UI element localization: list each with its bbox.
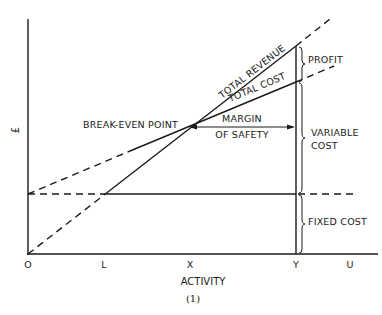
total-revenue-line-dashed-end: [296, 19, 330, 46]
total-cost-line: [130, 82, 296, 151]
total-revenue-line-dashed-start: [28, 195, 104, 254]
margin-label-line2: OF SAFETY: [215, 129, 269, 140]
x-tick-x: X: [187, 259, 194, 270]
y-axis-label: £: [10, 127, 21, 133]
fixed-cost-label: FIXED COST: [308, 216, 367, 227]
fixed-cost-brace: [299, 195, 305, 253]
figure-caption: (1): [186, 293, 200, 304]
variable-cost-label-line2: COST: [311, 140, 338, 151]
profit-brace: [299, 47, 305, 82]
break-even-point-label: BREAK-EVEN POINT: [83, 119, 178, 130]
x-axis-label: ACTIVITY: [181, 276, 227, 287]
break-even-chart: £ TOTAL REVENUE TOTAL COST BREAK-EVEN PO…: [0, 0, 382, 315]
profit-label: PROFIT: [308, 54, 343, 65]
variable-cost-label-line1: VARIABLE: [311, 127, 359, 138]
arrow-right-head: [287, 125, 295, 130]
variable-cost-brace: [299, 83, 305, 193]
x-tick-l: L: [101, 259, 107, 270]
margin-label-line1: MARGIN: [222, 113, 262, 124]
x-tick-o: O: [24, 259, 32, 270]
x-tick-y: Y: [292, 259, 299, 270]
x-tick-u: U: [346, 259, 353, 270]
